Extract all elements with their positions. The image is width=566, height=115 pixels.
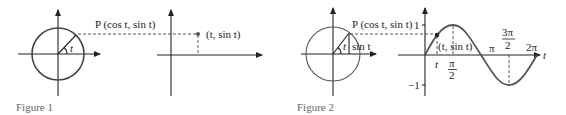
x-tick-pi: π — [489, 42, 495, 54]
sine-graph: t 1 −1 (t, sin t) t π 2 π 3π 2 2π — [398, 8, 547, 96]
point-p-label: P (cos t, sin t) — [352, 18, 413, 31]
plot-point-label: (t, sin t) — [206, 28, 241, 41]
plot-axes-1: (t, sin t) — [157, 10, 262, 96]
plot-point-dot — [196, 32, 200, 36]
figure-2: t sin t P (cos t, sin t) t 1 −1 (t, sin … — [297, 8, 547, 113]
unit-circle-1: t — [18, 10, 100, 96]
curve-point-label: (t, sin t) — [438, 40, 473, 53]
x-tick-t: t — [435, 58, 439, 70]
x-tick-pi-half-den: 2 — [449, 69, 455, 81]
x-tick-pi-half-num: π — [449, 57, 455, 69]
figure-2-caption: Figure 2 — [297, 101, 334, 113]
angle-label: t — [70, 42, 74, 54]
curve-point-dot — [435, 33, 440, 38]
t-axis-label: t — [543, 49, 547, 61]
sin-t-label: sin t — [352, 40, 371, 52]
y-tick-1: 1 — [414, 19, 420, 31]
x-tick-3pi-half-den: 2 — [505, 39, 511, 51]
x-tick-2pi: 2π — [526, 41, 538, 53]
point-p-label: P (cos t, sin t) — [95, 18, 156, 31]
figure-1-caption: Figure 1 — [16, 101, 53, 113]
y-tick-neg1: −1 — [408, 79, 420, 91]
angle-arc — [64, 48, 67, 55]
figure-1: t P (cos t, sin t) (t, sin t) Figure 1 — [16, 10, 262, 113]
x-tick-3pi-half-num: 3π — [502, 26, 514, 38]
angle-label: t — [343, 40, 347, 52]
angle-arc — [338, 48, 341, 55]
figure-canvas: t P (cos t, sin t) (t, sin t) Figure 1 t… — [0, 0, 566, 115]
